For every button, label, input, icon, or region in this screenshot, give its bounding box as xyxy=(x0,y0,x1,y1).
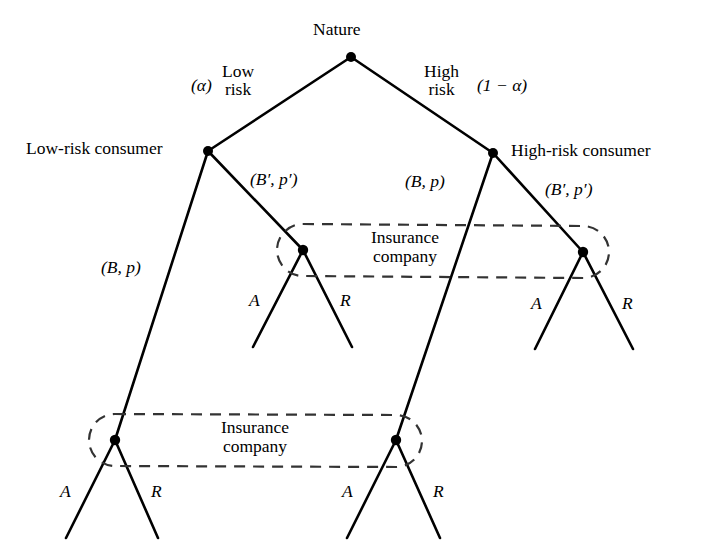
edge-high-risk-offer-Bprime-pprime xyxy=(493,153,583,252)
game-tree-figure: Nature (α) Low risk High risk (1 − α) Lo… xyxy=(0,0,712,560)
information-set-lower-label-line1: Insurance xyxy=(195,418,315,437)
branch-label-low-risk: Low risk xyxy=(222,62,254,98)
contract-label-low-right: (B′, p′) xyxy=(250,170,298,189)
node-label-low-risk-consumer: Low-risk consumer xyxy=(26,139,163,158)
action-label-upper-right-accept: A xyxy=(531,294,542,313)
action-label-upper-left-reject: R xyxy=(340,291,351,310)
branch-prob-low-risk: (α) xyxy=(191,76,212,95)
node-high-risk-consumer xyxy=(488,148,498,158)
contract-label-high-left: (B, p) xyxy=(405,172,445,191)
edge-high-risk-offer-B-p xyxy=(396,153,493,440)
edge-lower-right-accept xyxy=(347,440,396,538)
node-label-high-risk-consumer: High-risk consumer xyxy=(511,141,651,160)
action-label-lower-right-accept: A xyxy=(342,482,353,501)
node-insurance-upper-left xyxy=(298,245,308,255)
edge-upper-right-accept xyxy=(535,252,583,349)
action-label-lower-left-reject: R xyxy=(151,482,162,501)
branch-label-low-risk-line2: risk xyxy=(222,80,254,98)
node-low-risk-consumer xyxy=(203,146,213,156)
edge-nature-to-high-risk xyxy=(351,57,493,153)
branch-prob-high-risk: (1 − α) xyxy=(477,76,527,95)
information-set-upper-label-line2: company xyxy=(345,247,465,266)
node-label-nature: Nature xyxy=(313,20,361,39)
contract-label-low-left: (B, p) xyxy=(101,258,141,277)
action-label-upper-right-reject: R xyxy=(622,294,633,313)
node-insurance-lower-left xyxy=(110,435,120,445)
action-label-lower-left-accept: A xyxy=(60,482,71,501)
edge-low-risk-offer-Bprime-pprime xyxy=(208,151,303,250)
game-tree-canvas xyxy=(0,0,712,560)
action-label-lower-right-reject: R xyxy=(433,482,444,501)
edge-lower-left-accept xyxy=(66,440,115,538)
branch-label-low-risk-line1: Low xyxy=(222,62,254,80)
information-set-lower-label-line2: company xyxy=(195,437,315,456)
branch-label-high-risk-line2: risk xyxy=(424,80,459,98)
information-set-upper-label: Insurance company xyxy=(345,228,465,265)
node-insurance-upper-right xyxy=(578,247,588,257)
edge-upper-left-accept xyxy=(253,250,303,347)
action-label-upper-left-accept: A xyxy=(249,291,260,310)
information-set-lower-label: Insurance company xyxy=(195,418,315,455)
node-insurance-lower-right xyxy=(391,435,401,445)
information-set-upper-label-line1: Insurance xyxy=(345,228,465,247)
node-nature xyxy=(346,52,356,62)
branch-label-high-risk: High risk xyxy=(424,62,459,98)
edge-low-risk-offer-B-p xyxy=(115,151,208,440)
contract-label-high-right: (B′, p′) xyxy=(545,180,593,199)
branch-label-high-risk-line1: High xyxy=(424,62,459,80)
